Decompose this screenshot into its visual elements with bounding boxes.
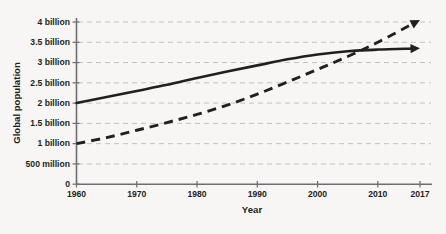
- y-axis-tick-label: 3.5 billion: [30, 37, 70, 47]
- y-axis-tick-labels: 0500 million1 billion1.5 billion2 billio…: [26, 17, 71, 189]
- x-axis-tick-label: 2000: [308, 189, 327, 199]
- y-axis-tick-label: 1.5 billion: [30, 118, 70, 128]
- x-axis-tick-label: 1970: [127, 189, 146, 199]
- solid-series-arrowhead: [410, 44, 420, 53]
- x-axis-tick-label: 2010: [368, 189, 387, 199]
- y-axis-tick-label: 3 billion: [38, 57, 70, 67]
- y-axis-tick-label: 2.5 billion: [30, 78, 70, 88]
- y-axis-tick-label: 500 million: [26, 159, 70, 169]
- y-axis-tick-label: 4 billion: [38, 17, 70, 27]
- solid-series-line: [77, 49, 413, 104]
- population-growth-chart: 0500 million1 billion1.5 billion2 billio…: [0, 0, 446, 234]
- x-axis-tick-label: 1990: [248, 189, 267, 199]
- y-axis-title: Global population: [11, 62, 22, 144]
- x-axis-tick-label: 1960: [67, 189, 86, 199]
- y-axis-tick-label: 2 billion: [38, 98, 70, 108]
- data-series-layer: [77, 20, 421, 144]
- y-axis-tick-label: 0: [65, 179, 70, 189]
- chart-svg: 0500 million1 billion1.5 billion2 billio…: [0, 0, 446, 234]
- x-axis-tick-labels: 1960197019801990200020102017: [67, 189, 430, 199]
- x-axis-title: Year: [242, 204, 263, 215]
- dashed-series-arrowhead: [409, 20, 420, 29]
- x-axis-tick-label: 2017: [410, 189, 429, 199]
- y-axis-tick-label: 1 billion: [38, 138, 70, 148]
- x-axis-tick-label: 1980: [187, 189, 206, 199]
- dashed-series-line: [77, 23, 414, 143]
